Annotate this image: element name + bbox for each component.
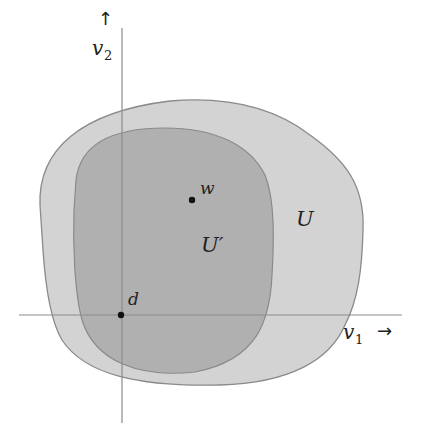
y-arrow-icon: ↑ xyxy=(98,8,113,29)
y-axis-label: v xyxy=(92,36,104,60)
x-axis-subscript: 1 xyxy=(355,332,363,347)
point-d xyxy=(118,312,124,318)
diagram-canvas: w d U U′ ↑ v 2 v 1 → xyxy=(0,0,423,444)
region-u-prime xyxy=(74,128,274,373)
x-arrow-icon: → xyxy=(377,320,392,341)
label-w: w xyxy=(200,178,215,198)
y-axis-subscript: 2 xyxy=(104,48,112,63)
label-d: d xyxy=(128,289,139,309)
x-axis-label: v xyxy=(343,320,355,344)
label-u: U xyxy=(296,207,315,231)
label-u-prime: U′ xyxy=(201,233,224,257)
point-w xyxy=(189,197,195,203)
